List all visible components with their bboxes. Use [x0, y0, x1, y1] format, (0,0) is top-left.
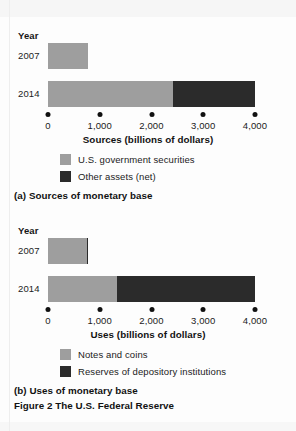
axis-tick-label: 3,000: [191, 315, 215, 326]
legend-swatch-icon: [60, 349, 71, 360]
legend-swatch-icon: [60, 171, 71, 182]
bar-segment: [117, 276, 255, 302]
legend-item: Other assets (net): [60, 169, 195, 184]
axis-tick-dot: [201, 307, 206, 312]
figure-caption: Figure 2 The U.S. Federal Reserve: [14, 400, 174, 411]
category-label-2014: 2014: [18, 88, 40, 99]
bar-segment: [48, 238, 87, 264]
legend-item: Reserves of depository institutions: [60, 364, 226, 379]
axis-tick-label: 4,000: [243, 120, 267, 131]
axis-tick-dot: [253, 307, 258, 312]
bar-2014: [48, 276, 255, 302]
legend-swatch-icon: [60, 154, 71, 165]
bar-segment: [87, 238, 89, 264]
figure-page: Year 2007 2014 01,0002,0003,0004,000 Sou…: [0, 0, 296, 431]
axis-tick-dot: [46, 112, 51, 117]
bar-segment: [48, 43, 88, 69]
legend-swatch-icon: [60, 366, 71, 377]
axis-tick-dot: [97, 112, 102, 117]
bar-2007: [48, 43, 88, 69]
plot-area-sources: 2007 2014 01,0002,0003,0004,000 Sources …: [0, 30, 296, 150]
legend-item: Notes and coins: [60, 347, 226, 362]
legend-label: U.S. government securities: [78, 154, 195, 165]
legend-label: Reserves of depository institutions: [78, 366, 226, 377]
axis-tick-label: 0: [45, 315, 50, 326]
legend-uses: Notes and coins Reserves of depository i…: [60, 347, 226, 381]
axis-tick-dot: [46, 307, 51, 312]
axis-tick-label: 4,000: [243, 315, 267, 326]
legend-sources: U.S. government securities Other assets …: [60, 152, 195, 186]
axis-tick-dot: [97, 307, 102, 312]
bar-2014: [48, 81, 255, 107]
bar-segment: [173, 81, 255, 107]
axis-tick-dot: [149, 112, 154, 117]
bar-segment: [48, 276, 117, 302]
axis-tick-label: 3,000: [191, 120, 215, 131]
legend-label: Notes and coins: [78, 349, 148, 360]
category-label-2014: 2014: [18, 283, 40, 294]
category-label-2007: 2007: [18, 50, 40, 61]
bar-segment: [48, 81, 173, 107]
category-label-2007: 2007: [18, 245, 40, 256]
legend-label: Other assets (net): [78, 171, 156, 182]
axis-tick-dot: [149, 307, 154, 312]
page-bottom-tint: [0, 422, 296, 431]
axis-tick-label: 1,000: [88, 315, 112, 326]
axis-tick-dot: [201, 112, 206, 117]
axis-tick-dot: [253, 112, 258, 117]
page-top-tint: [0, 0, 296, 17]
axis-tick-label: 0: [45, 120, 50, 131]
x-axis-title: Sources (billions of dollars): [0, 134, 296, 145]
legend-item: U.S. government securities: [60, 152, 195, 167]
bar-2007: [48, 238, 88, 264]
panel-caption-a: (a) Sources of monetary base: [14, 190, 153, 201]
axis-tick-label: 1,000: [88, 120, 112, 131]
x-axis-title: Uses (billions of dollars): [0, 329, 296, 340]
panel-caption-b: (b) Uses of monetary base: [14, 385, 138, 396]
plot-area-uses: 2007 2014 01,0002,0003,0004,000 Uses (bi…: [0, 225, 296, 345]
axis-tick-label: 2,000: [139, 315, 163, 326]
axis-tick-label: 2,000: [139, 120, 163, 131]
